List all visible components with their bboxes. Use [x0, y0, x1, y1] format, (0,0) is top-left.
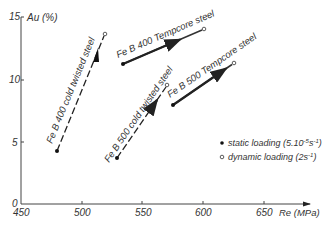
y-tick-15: 15 [9, 11, 21, 22]
dynamic-point [202, 27, 206, 31]
series-feb400-tempcore: Fe B 400 Tempcore steel [114, 7, 216, 66]
y-tick-10: 10 [9, 74, 21, 85]
x-tick-650: 650 [256, 207, 273, 218]
y-axis-label: Au (%) [26, 12, 58, 23]
x-tick-550: 550 [135, 207, 152, 218]
y-tick-5: 5 [12, 137, 18, 148]
x-axis-label: Re (MPa) [279, 207, 320, 218]
dynamic-marker-icon [220, 155, 224, 159]
x-tick-450: 450 [13, 207, 30, 218]
legend: static loading (5.10-5s-1) dynamic loadi… [220, 138, 322, 162]
x-tick-500: 500 [74, 207, 91, 218]
dynamic-point [232, 61, 236, 65]
static-marker-icon [220, 141, 224, 145]
x-axis: 450 500 550 600 650 Re (MPa) [13, 201, 320, 218]
static-point [121, 62, 125, 66]
dynamic-point [103, 32, 107, 36]
x-tick-600: 600 [195, 207, 212, 218]
series-feb500-tempcore: Fe B 500 Tempcore steel [165, 30, 259, 107]
series-feb400-cold-twisted: Fe B 400 cold twisted steel [44, 32, 107, 153]
static-point [171, 103, 175, 107]
chart: 15 10 5 0 Au (%) 450 500 550 600 650 Re … [0, 0, 326, 227]
series-label: Fe B 500 cold twisted steel [102, 64, 176, 165]
y-axis: 15 10 5 0 Au (%) [9, 11, 58, 209]
static-point [55, 149, 59, 153]
series-feb500-cold-twisted: Fe B 500 cold twisted steel [102, 64, 176, 165]
dynamic-point [165, 83, 169, 87]
legend-dynamic: dynamic loading (2s-1) [228, 152, 316, 162]
series-label: Fe B 400 Tempcore steel [114, 7, 216, 60]
legend-static: static loading (5.10-5s-1) [228, 138, 322, 148]
series-label: Fe B 400 cold twisted steel [44, 35, 98, 145]
